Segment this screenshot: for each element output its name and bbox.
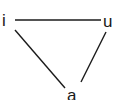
vowel-triangle-diagram: i u a: [0, 0, 125, 100]
node-a: a: [67, 86, 77, 100]
node-i: i: [2, 11, 6, 30]
node-u: u: [103, 12, 112, 31]
edge-u-a: [81, 32, 106, 82]
edge-i-a: [15, 30, 65, 88]
